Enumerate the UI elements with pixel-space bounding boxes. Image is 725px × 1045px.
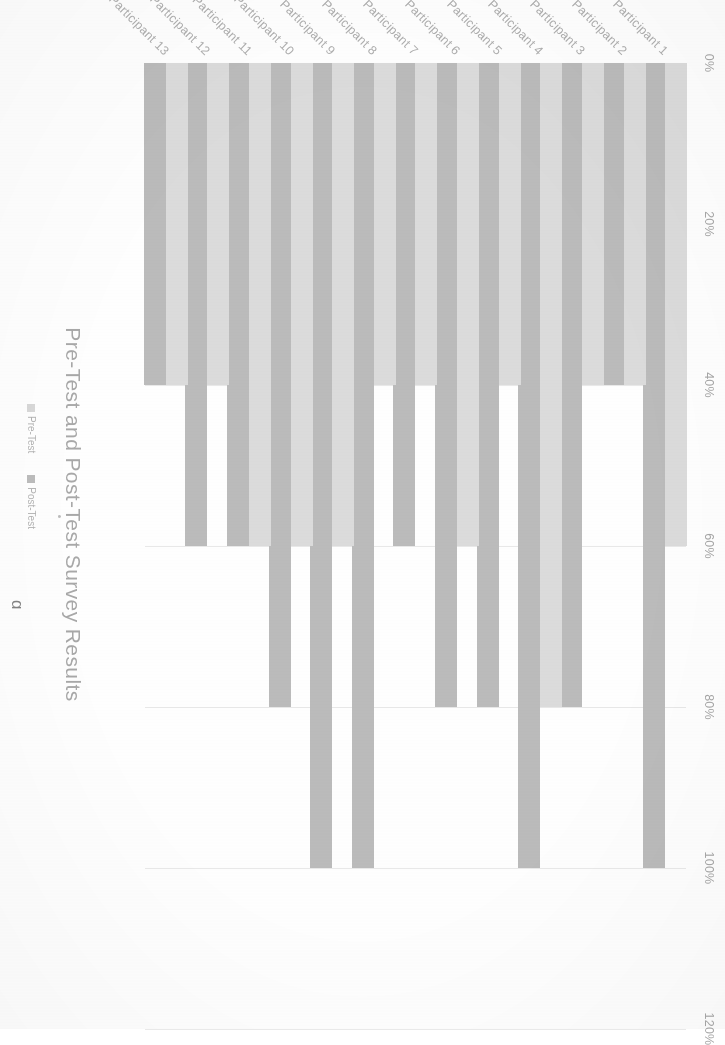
tick-label-60pct: 60% bbox=[702, 533, 716, 559]
legend-label-post-test: Post-Test bbox=[26, 487, 37, 529]
bar-pre-test[interactable] bbox=[665, 63, 687, 546]
chart-title: Pre-Test and Post-Test Survey Results bbox=[61, 0, 85, 1029]
bar-group bbox=[269, 63, 313, 1029]
plot-area: 0%20%40%60%80%100%120% Participant 1Part… bbox=[145, 63, 686, 1029]
clipped-heading-fragment: g bbox=[12, 600, 22, 609]
bar-post-test[interactable] bbox=[394, 63, 416, 546]
bar-post-test[interactable] bbox=[144, 63, 166, 385]
bar-post-test[interactable] bbox=[560, 63, 582, 707]
bar-post-test[interactable] bbox=[602, 63, 624, 385]
bar-group bbox=[477, 63, 521, 1029]
bar-pre-test[interactable] bbox=[207, 63, 229, 385]
bar-group bbox=[643, 63, 687, 1029]
legend-swatch-icon-pre-test bbox=[28, 404, 36, 412]
scan-artifact-dot bbox=[58, 515, 61, 518]
bar-pre-test[interactable] bbox=[249, 63, 271, 546]
bar-pre-test[interactable] bbox=[416, 63, 438, 385]
chart-legend: Pre-Test Post-Test bbox=[26, 404, 37, 529]
bar-group bbox=[227, 63, 271, 1029]
bar-post-test[interactable] bbox=[477, 63, 499, 707]
bar-post-test[interactable] bbox=[518, 63, 540, 868]
bar-post-test[interactable] bbox=[310, 63, 332, 868]
plot-inner: 0%20%40%60%80%100%120% Participant 1Part… bbox=[145, 63, 686, 1029]
bar-pre-test[interactable] bbox=[374, 63, 396, 385]
gridline-120pct bbox=[145, 1029, 686, 1030]
tick-label-80pct: 80% bbox=[702, 694, 716, 720]
bar-pre-test[interactable] bbox=[291, 63, 313, 546]
legend-entry-post-test[interactable]: Post-Test bbox=[26, 475, 37, 529]
bar-post-test[interactable] bbox=[227, 63, 249, 546]
bar-pre-test[interactable] bbox=[332, 63, 354, 546]
bar-pre-test[interactable] bbox=[166, 63, 188, 385]
bar-pre-test[interactable] bbox=[540, 63, 562, 707]
tick-label-20pct: 20% bbox=[702, 211, 716, 237]
bar-group bbox=[352, 63, 396, 1029]
bar-group bbox=[144, 63, 188, 1029]
legend-swatch-icon-post-test bbox=[28, 475, 36, 483]
tick-label-0pct: 0% bbox=[702, 54, 716, 72]
bar-group bbox=[185, 63, 229, 1029]
bar-group bbox=[394, 63, 438, 1029]
bar-post-test[interactable] bbox=[643, 63, 665, 868]
bar-group bbox=[435, 63, 479, 1029]
bar-group bbox=[560, 63, 604, 1029]
tick-label-100pct: 100% bbox=[702, 852, 716, 885]
bar-group bbox=[602, 63, 646, 1029]
legend-entry-pre-test[interactable]: Pre-Test bbox=[26, 404, 37, 453]
bar-pre-test[interactable] bbox=[499, 63, 521, 385]
bar-post-test[interactable] bbox=[269, 63, 291, 707]
tick-label-40pct: 40% bbox=[702, 372, 716, 398]
bar-post-test[interactable] bbox=[435, 63, 457, 707]
tick-label-120pct: 120% bbox=[702, 1013, 716, 1045]
bar-post-test[interactable] bbox=[352, 63, 374, 868]
bar-pre-test[interactable] bbox=[457, 63, 479, 546]
bar-post-test[interactable] bbox=[185, 63, 207, 546]
legend-label-pre-test: Pre-Test bbox=[26, 416, 37, 453]
bar-pre-test[interactable] bbox=[624, 63, 646, 385]
bar-pre-test[interactable] bbox=[582, 63, 604, 385]
bar-group bbox=[310, 63, 354, 1029]
bar-group bbox=[518, 63, 562, 1029]
